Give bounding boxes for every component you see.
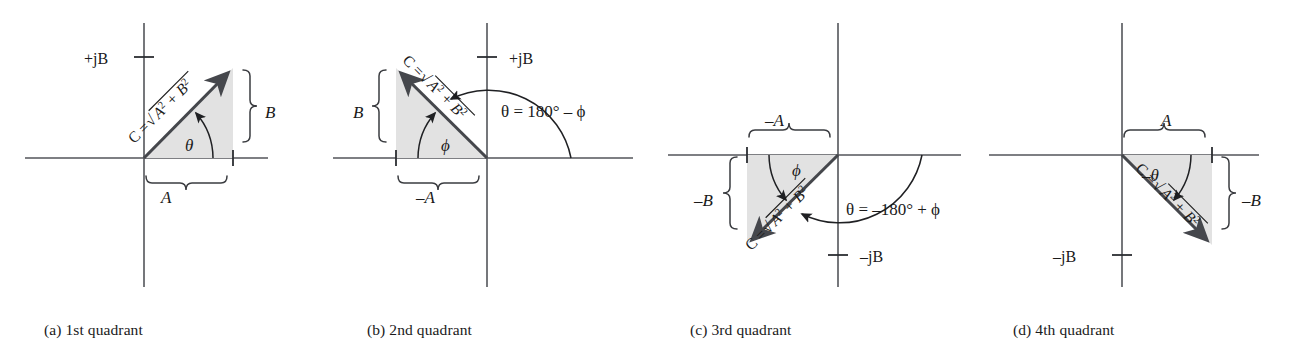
vertical-leg-label: B — [353, 103, 364, 122]
brace-horizontal — [398, 176, 479, 190]
vertical-leg-label: –B — [1241, 191, 1262, 210]
brace-vertical — [372, 70, 386, 142]
brace-vertical — [1222, 157, 1236, 229]
angle-relation: θ = 180° – ϕ — [501, 102, 586, 121]
brace-horizontal — [146, 176, 227, 190]
four-quadrant-phasor-figure: +jB A B θ C = √ A2 + B2 (a) 1st quadrant — [0, 0, 1291, 361]
panel-fourth-quadrant: –jB A –B –θ C = √ A2 + B2 (d) 4th quadra… — [969, 0, 1291, 361]
panel-first-quadrant: +jB A B θ C = √ A2 + B2 (a) 1st quadrant — [0, 0, 323, 361]
horizontal-leg-label: A — [1160, 111, 1172, 130]
panel-caption: (d) 4th quadrant — [1013, 321, 1114, 339]
panel-caption: (a) 1st quadrant — [44, 321, 143, 339]
panel-caption: (b) 2nd quadrant — [367, 321, 472, 339]
vertical-leg-label: B — [265, 103, 276, 122]
horizontal-leg-label: A — [160, 188, 172, 207]
brace-vertical — [243, 70, 257, 142]
imaginary-axis-label: –jB — [1052, 248, 1076, 266]
vertical-leg-label: –B — [693, 191, 714, 210]
panel-caption: (c) 3rd quadrant — [690, 321, 791, 339]
horizontal-leg-label: –A — [764, 111, 785, 130]
imaginary-axis-label: –jB — [859, 248, 883, 266]
panel-third-quadrant: –jB –A –B ϕ θ = –180° + ϕ C = √ A2 + B2 … — [646, 0, 969, 361]
imaginary-axis-label: +jB — [84, 50, 108, 68]
brace-horizontal — [749, 123, 830, 137]
brace-vertical — [723, 157, 737, 229]
angle-label: ϕ — [441, 136, 450, 155]
angle-label: ϕ — [792, 161, 801, 180]
angle-label: θ — [185, 136, 193, 155]
panel-second-quadrant: +jB –A B ϕ θ = 180° – ϕ C = √ A2 + B2 (b… — [323, 0, 646, 361]
horizontal-leg-label: –A — [415, 188, 436, 207]
imaginary-axis-label: +jB — [509, 50, 533, 68]
angle-relation: θ = –180° + ϕ — [846, 200, 940, 219]
